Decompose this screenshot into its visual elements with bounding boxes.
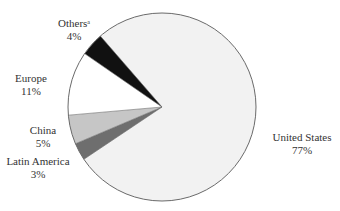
label-europe-name: Europe: [15, 72, 47, 85]
label-latin-america-name: Latin America: [6, 155, 69, 168]
label-china-value: 5%: [30, 137, 56, 150]
label-europe-value: 11%: [15, 85, 47, 98]
label-europe: Europe 11%: [15, 72, 47, 98]
label-united-states-value: 77%: [273, 144, 332, 157]
label-latin-america: Latin America 3%: [6, 155, 69, 181]
label-united-states: United States 77%: [273, 131, 332, 157]
label-others: Othersa 4%: [58, 17, 90, 43]
label-others-value: 4%: [58, 30, 90, 43]
footnote-marker: a: [87, 19, 90, 25]
label-china-name: China: [30, 124, 56, 137]
label-china: China 5%: [30, 124, 56, 150]
label-others-name: Others: [58, 17, 87, 29]
label-united-states-name: United States: [273, 131, 332, 144]
label-latin-america-value: 3%: [6, 168, 69, 181]
